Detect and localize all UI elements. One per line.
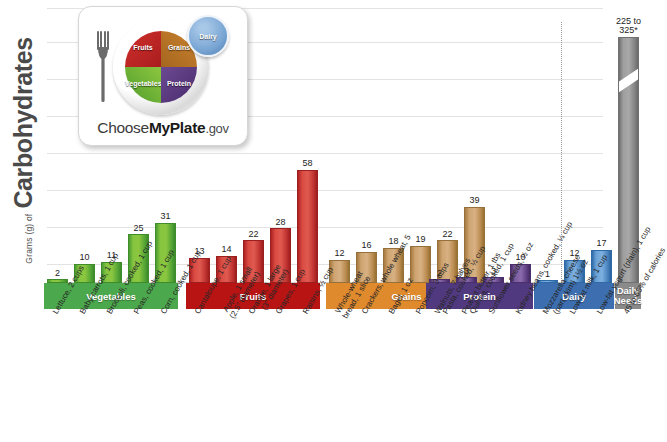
wordmark-choose: Choose <box>97 119 149 136</box>
plate-dairy-circle: Dairy <box>187 15 229 57</box>
y-axis-title: Grams (g) of Carbohydrates <box>0 0 46 300</box>
x-axis-tick-labels: Lettuce, 2 cupsBaby carrots, 1 cupBrocco… <box>0 309 604 442</box>
plate-label-vegetables: Vegetables <box>125 80 161 87</box>
fork-icon <box>97 31 109 103</box>
bar-value-label: 12 <box>334 248 344 258</box>
plate-label-dairy: Dairy <box>199 33 217 40</box>
bar-value-label: 22 <box>442 229 452 239</box>
bar-value-label: 10 <box>79 252 89 262</box>
bar-value-label: 22 <box>248 229 258 239</box>
bar-rect <box>297 170 318 283</box>
bar-value-label: 2 <box>55 268 60 278</box>
bar-13: 19 <box>410 234 431 283</box>
bar-value-label: 225 to325* <box>616 17 641 36</box>
wordmark-myplate: MyPlate <box>149 119 205 136</box>
bar-value-label: 16 <box>361 240 371 250</box>
bar-value-label: 14 <box>221 244 231 254</box>
plate-label-protein: Protein <box>161 80 197 87</box>
bar-10: 12 <box>329 248 350 283</box>
bar-rect <box>410 246 431 283</box>
bar-value-label: 19 <box>415 234 425 244</box>
bar-value-label: 31 <box>160 211 170 221</box>
bar-value-label: 25 <box>133 223 143 233</box>
bar-value-label: 28 <box>275 217 285 227</box>
bar-value-label: 58 <box>302 158 312 168</box>
bar-9: 58 <box>297 158 318 283</box>
chooseMyPlate-logo: Fruits Grains Vegetables Protein Dairy C… <box>78 6 248 146</box>
axis-break-slash <box>618 67 639 94</box>
logo-wordmark: ChooseMyPlate.gov <box>79 119 247 137</box>
bar-0: 2 <box>47 268 68 283</box>
y-axis-main-label: Carbohydrates <box>9 37 38 208</box>
plate-label-fruits: Fruits <box>125 44 161 51</box>
y-axis-unit-label: Grams (g) of <box>24 213 34 263</box>
wordmark-gov: .gov <box>205 121 228 136</box>
bar-value-label: 17 <box>596 238 606 248</box>
bar-value-label: 39 <box>469 195 479 205</box>
